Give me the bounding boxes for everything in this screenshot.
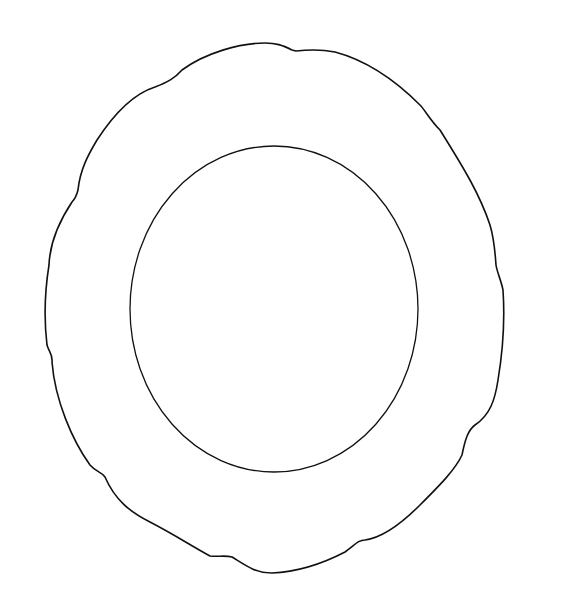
plate-drawing bbox=[0, 0, 564, 601]
plate-inner-well bbox=[130, 146, 418, 472]
plate-outer-rim bbox=[45, 43, 504, 573]
